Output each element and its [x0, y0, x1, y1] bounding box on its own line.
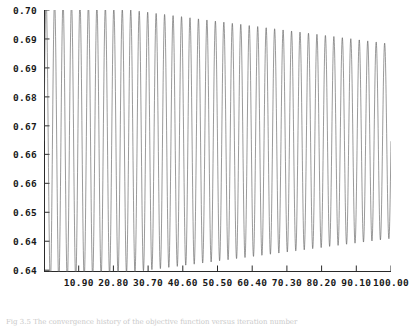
x-axis-tick-label: 40.60: [168, 277, 198, 288]
x-axis-tick-label: 70.30: [272, 277, 302, 288]
x-axis-tick-label: 30.70: [133, 277, 163, 288]
x-axis-tick-marks: [79, 266, 391, 272]
x-axis-tick-label: 80.20: [307, 277, 337, 288]
data-series-objective: [44, 10, 391, 272]
x-axis-tick-label: 20.80: [98, 277, 128, 288]
plot-svg: [44, 10, 391, 272]
x-axis-tick-label: 10.90: [64, 277, 94, 288]
x-axis-tick-label: 60.40: [237, 277, 267, 288]
figure-canvas: 0.700.690.690.680.670.660.660.650.640.64…: [0, 0, 419, 332]
x-axis-tick-label: 100.00: [373, 277, 409, 288]
x-axis-tick-label: 50.50: [202, 277, 232, 288]
x-axis-tick-label: 90.10: [341, 277, 371, 288]
plot-area: [44, 10, 391, 272]
figure-caption: Fig 3.5 The convergence history of the o…: [6, 318, 406, 327]
